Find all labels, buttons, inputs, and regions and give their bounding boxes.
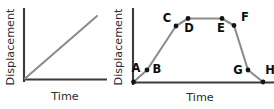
right-chart-marker-a: [131, 80, 136, 85]
right-chart-point-label-e: E: [217, 21, 225, 35]
right-chart-point-label-a: A: [132, 61, 141, 75]
right-chart-marker-f: [232, 23, 237, 28]
right-chart-y-axis-label: Displacement: [112, 8, 125, 86]
right-chart-point-label-f: F: [241, 10, 249, 24]
right-chart-marker-c: [174, 24, 179, 29]
left-chart: Displacement Time: [4, 8, 107, 103]
right-chart-point-label-b: B: [153, 62, 162, 76]
left-chart-y-axis-label: Displacement: [4, 8, 17, 86]
right-chart-marker-b: [145, 68, 150, 73]
right-chart-point-label-c: C: [163, 11, 171, 25]
right-chart-point-label-d: D: [184, 21, 194, 35]
right-chart: Displacement A B C D E F G H: [112, 8, 274, 104]
left-chart-x-axis-label: Time: [50, 90, 78, 103]
right-chart-point-label-h: H: [265, 63, 274, 77]
right-chart-x-axis-label: Time: [185, 91, 213, 104]
figure-canvas: Displacement Time Displacement: [0, 0, 274, 109]
left-chart-data-line: [25, 16, 97, 79]
right-chart-marker-h: [261, 80, 266, 85]
right-chart-point-label-g: G: [233, 63, 242, 77]
right-chart-marker-g: [246, 68, 251, 73]
two-panel-displacement-time-figure: Displacement Time Displacement: [0, 0, 274, 109]
